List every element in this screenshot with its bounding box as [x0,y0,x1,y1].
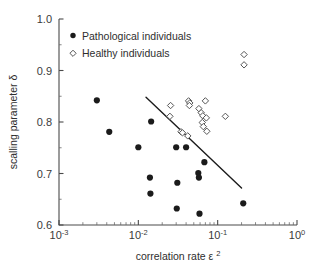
data-point-pathological [183,144,189,150]
data-point-pathological [201,159,207,165]
data-point-healthy [167,102,173,108]
x-tick-label: 10-2 [129,228,148,241]
data-point-healthy [222,113,228,119]
y-axis-tick-labels: 1.00.90.80.70.6 [37,13,52,231]
scatter-plot-figure: 1.00.90.80.70.6 10-310-210-1100 Patholog… [0,0,324,267]
y-tick-label: 0.8 [37,116,52,128]
data-point-pathological [94,97,100,103]
regression-line-segment [146,97,242,188]
data-point-pathological [106,129,112,135]
data-point-pathological [240,200,246,206]
x-axis-title: correlation rate ε 2 [136,249,221,262]
data-point-pathological [174,180,180,186]
x-axis-tick-labels: 10-310-210-1100 [50,228,306,241]
x-tick-label: 10-1 [208,228,227,241]
data-point-pathological [148,118,154,124]
data-point-pathological [174,205,180,211]
chart-legend: Pathological individuals Healthy individ… [70,30,191,60]
data-point-pathological [173,144,179,150]
data-point-healthy [202,98,208,104]
y-axis-title: scalling parameter δ [7,75,19,170]
data-point-pathological [135,144,141,150]
data-point-pathological [196,175,202,181]
legend-label-pathological: Pathological individuals [82,30,191,42]
data-point-healthy [241,51,247,57]
y-axis-ticks [59,19,64,225]
data-point-pathological [147,190,153,196]
legend-marker-filled-circle [70,33,75,38]
data-point-healthy [241,62,247,68]
x-tick-label: 10-3 [50,228,69,241]
legend-label-healthy: Healthy individuals [82,47,170,59]
legend-marker-open-diamond [70,50,76,56]
regression-trend-line [146,97,242,188]
y-tick-label: 0.7 [37,168,52,180]
x-axis-ticks [59,220,297,225]
chart-canvas: 1.00.90.80.70.6 10-310-210-1100 Patholog… [0,0,324,267]
y-tick-label: 0.9 [37,65,52,77]
x-tick-label: 100 [289,228,305,241]
data-point-pathological [196,211,202,217]
y-tick-label: 1.0 [37,13,52,25]
series-healthy-individuals [167,51,248,139]
data-point-pathological [147,175,153,181]
